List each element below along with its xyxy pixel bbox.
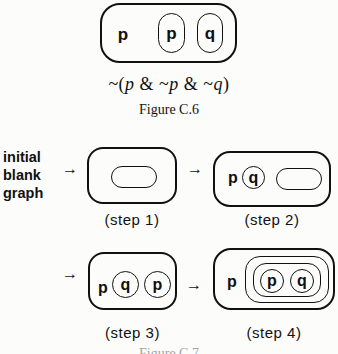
c6-cut1-label: p (166, 25, 176, 42)
c6-cut2-label: q (205, 25, 215, 42)
formula-part: & ~ (179, 74, 214, 94)
step4-inner-q-label: q (297, 273, 307, 289)
step3-caption: (step 3) (88, 324, 177, 341)
step1-caption: (step 1) (87, 211, 177, 228)
step4-q-oval: q (290, 269, 314, 293)
step2-p-wrap: p (224, 168, 242, 188)
step3-q-label: q (121, 277, 131, 293)
step1-blank-oval (111, 166, 157, 188)
c6-cut2-oval: q (197, 13, 223, 53)
arrow-icon: → (62, 161, 78, 177)
formula-part: ) (223, 74, 230, 94)
formula-part: & ~ (135, 74, 170, 94)
initial-blank-graph-label: initial blank graph (3, 148, 43, 202)
arrow-icon: → (187, 161, 203, 177)
c7-caption: Figure C.7 (0, 346, 338, 354)
step4-rect: p p q (213, 248, 335, 310)
c6-sheet-label-wrap: p (112, 23, 134, 45)
step2-p-label: p (228, 170, 238, 186)
step4-p-label: p (227, 274, 237, 290)
formula-part: ~( (108, 74, 125, 94)
step4-inner-p-label: p (267, 273, 277, 289)
formula-var-p2: p (169, 74, 179, 94)
arrow-icon: → (186, 277, 202, 293)
step2-q-oval: q (242, 166, 265, 189)
page: p p q ~(p & ~p & ~q) Figure C.6 initial … (0, 0, 338, 354)
c6-caption: Figure C.6 (0, 102, 338, 118)
step1-rect (87, 147, 177, 204)
step3-p2-label: p (153, 277, 163, 293)
step2-caption: (step 2) (213, 211, 331, 228)
arrow-icon: → (62, 266, 78, 282)
step2-blank-oval (276, 168, 322, 190)
step4-p-oval: p (260, 269, 284, 293)
step2-q-label: q (249, 170, 259, 186)
c6-formula: ~(p & ~p & ~q) (0, 74, 338, 95)
step4-caption: (step 4) (213, 324, 335, 341)
formula-var-q: q (214, 74, 224, 94)
step4-outer-cut: p q (245, 256, 329, 303)
step4-inner-cut: p q (253, 263, 321, 297)
step3-rect: p q p (88, 252, 177, 310)
step3-p-label: p (98, 280, 108, 296)
c6-cut1-oval: p (158, 13, 185, 53)
step3-p2-oval: p (144, 271, 171, 298)
step2-rect: p q (213, 151, 331, 207)
c6-sheet-label: p (118, 26, 128, 43)
step4-p-wrap: p (223, 272, 241, 292)
step3-p-wrap: p (94, 278, 112, 298)
formula-var-p1: p (125, 74, 135, 94)
step3-q-oval: q (112, 271, 139, 298)
c6-sheet-rect: p p q (100, 3, 237, 63)
